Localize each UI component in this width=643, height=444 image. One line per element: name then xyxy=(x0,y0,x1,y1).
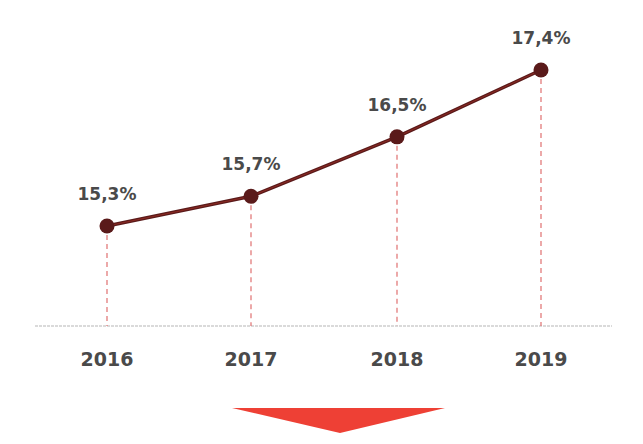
x-tick-label: 2017 xyxy=(225,348,278,370)
data-point-marker xyxy=(244,189,259,204)
down-arrow-icon xyxy=(232,408,445,433)
series-line-highlight xyxy=(107,70,541,226)
x-tick-label: 2019 xyxy=(515,348,568,370)
data-point-marker xyxy=(534,63,549,78)
value-label: 15,3% xyxy=(78,184,137,204)
value-labels: 15,3%15,7%16,5%17,4% xyxy=(78,28,571,204)
data-point-marker xyxy=(100,219,115,234)
value-label: 16,5% xyxy=(368,95,427,115)
data-point-marker xyxy=(390,129,405,144)
x-tick-labels: 2016201720182019 xyxy=(81,348,568,370)
series-line xyxy=(107,70,541,226)
value-label: 15,7% xyxy=(222,154,281,174)
drop-lines xyxy=(107,70,541,326)
value-label: 17,4% xyxy=(512,28,571,48)
x-tick-label: 2016 xyxy=(81,348,134,370)
line-chart: 15,3%15,7%16,5%17,4% 2016201720182019 xyxy=(0,0,643,444)
x-tick-label: 2018 xyxy=(371,348,424,370)
data-markers xyxy=(100,63,549,234)
